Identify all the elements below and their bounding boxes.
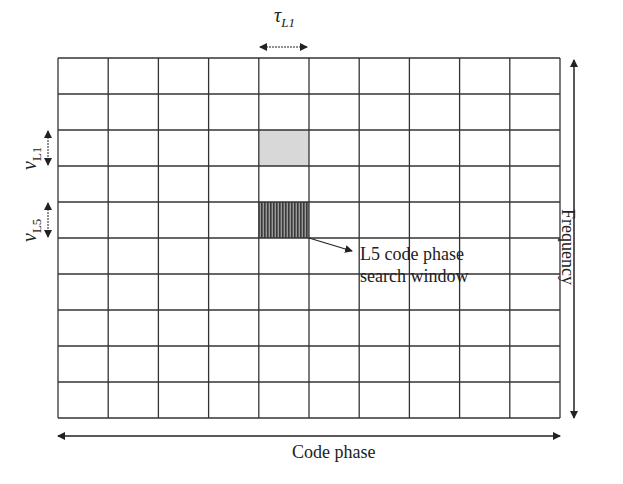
search-grid-diagram: [0, 0, 623, 484]
annotation-line-2: search window: [360, 265, 468, 287]
tau-subscript: L1: [281, 15, 295, 30]
nu-l1-label: vL1: [18, 147, 45, 170]
annotation-arrow: [309, 238, 352, 251]
nu-l5-symbol: v: [18, 233, 40, 242]
nu-l1-symbol: v: [18, 161, 40, 170]
annotation-line-1: L5 code phase: [360, 243, 468, 265]
l5-code-phase-search-window-cell: [259, 202, 309, 238]
frequency-axis-label: Frequency: [557, 209, 578, 285]
l1-cell: [259, 130, 309, 166]
nu-l1-subscript: L1: [29, 147, 44, 161]
nu-l5-label: vL5: [18, 219, 45, 242]
code-phase-axis-label: Code phase: [292, 442, 375, 463]
search-window-annotation: L5 code phase search window: [360, 243, 468, 287]
tau-l1-label: τL1: [274, 4, 295, 31]
nu-l5-subscript: L5: [29, 219, 44, 233]
